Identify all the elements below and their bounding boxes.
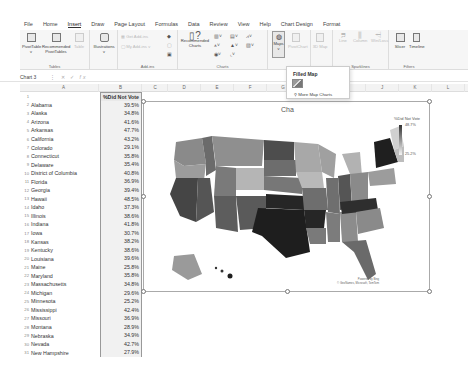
menu-tab-home[interactable]: Home (43, 21, 58, 27)
line-chart-icon[interactable]: ⩚˅ (214, 42, 220, 49)
value-cell[interactable]: 30.7% (100, 229, 142, 238)
value-cell[interactable]: 28.9% (100, 323, 142, 332)
state-cell[interactable]: Delaware (31, 162, 99, 168)
state-cell[interactable]: Minnesota (31, 298, 99, 304)
menu-tab-file[interactable]: File (24, 21, 33, 27)
value-cell[interactable]: 29.1% (100, 143, 142, 152)
row-number[interactable]: 13 (20, 196, 29, 201)
state-cell[interactable]: Indiana (31, 221, 99, 227)
row-number[interactable]: 21 (20, 265, 29, 270)
maps-button[interactable]: ◍ Maps ˅ (272, 31, 285, 58)
value-cell[interactable]: 41.8% (100, 220, 142, 229)
column-header-k[interactable]: K (399, 84, 432, 92)
value-cell[interactable]: 25.8% (100, 263, 142, 272)
resize-handle[interactable] (427, 194, 432, 199)
state-cell[interactable]: Idaho (31, 204, 99, 210)
row-number[interactable]: 4 (20, 119, 29, 124)
state-cell[interactable]: Kentucky (31, 247, 99, 253)
chart-title[interactable]: Cha (281, 106, 294, 113)
state-cell[interactable]: Iowa (31, 230, 99, 236)
state-cell[interactable]: Montana (31, 324, 99, 330)
value-cell[interactable]: 35.4% (100, 160, 142, 169)
timeline-button[interactable]: Timeline (409, 33, 423, 49)
state-cell[interactable]: Connecticut (31, 153, 99, 159)
resize-handle[interactable] (141, 99, 146, 104)
pivotchart-button[interactable]: PivotChart (288, 33, 304, 49)
resize-handle[interactable] (141, 289, 146, 294)
menu-tab-draw[interactable]: Draw (91, 21, 104, 27)
menu-tab-help[interactable]: Help (259, 21, 270, 27)
row-number[interactable]: 29 (20, 333, 29, 338)
value-cell[interactable]: 48.5% (100, 195, 142, 204)
row-number[interactable]: 24 (20, 290, 29, 295)
row-number[interactable]: 22 (20, 273, 29, 278)
column-header-j[interactable]: J (366, 84, 399, 92)
row-number[interactable]: 11 (20, 179, 29, 184)
bing-maps-icon[interactable]: ▣ (167, 51, 172, 57)
row-number[interactable]: 7 (20, 145, 29, 150)
recommended-pivottables-button[interactable]: Recommended PivotTables (42, 33, 70, 54)
menu-tab-chart-design[interactable]: Chart Design (281, 21, 313, 27)
row-number[interactable]: 17 (20, 231, 29, 236)
row-number[interactable]: 25 (20, 299, 29, 304)
state-cell[interactable]: California (31, 136, 99, 142)
state-cell[interactable]: Nebraska (31, 333, 99, 339)
column-header-c[interactable]: C (143, 84, 168, 92)
3d-map-button[interactable]: 3D Map (312, 33, 328, 49)
row-number[interactable]: 30 (20, 342, 29, 347)
filled-map-chart[interactable]: Cha (143, 101, 430, 292)
value-cell[interactable]: 42.4% (100, 306, 142, 315)
value-cell[interactable]: 25.2% (100, 297, 142, 306)
my-addins-button[interactable]: ◯ My Add-ins ˅ (121, 44, 151, 49)
state-cell[interactable]: Alabama (31, 102, 99, 108)
row-number[interactable]: 12 (20, 188, 29, 193)
value-cell[interactable]: 39.4% (100, 186, 142, 195)
cell-b1[interactable]: %Did Not Vote (100, 92, 142, 101)
waterfall-chart-icon[interactable]: ▲˅ (230, 42, 238, 48)
state-cell[interactable]: Florida (31, 179, 99, 185)
name-box[interactable]: Chart 3 (20, 74, 36, 80)
row-number[interactable]: 20 (20, 256, 29, 261)
row-number[interactable]: 28 (20, 325, 29, 330)
state-cell[interactable]: Massachusetts (31, 281, 99, 287)
recommended-charts-button[interactable]: ▯?Recommended Charts (180, 33, 210, 48)
row-number[interactable]: 15 (20, 213, 29, 218)
value-cell[interactable]: 34.8% (100, 280, 142, 289)
state-cell[interactable]: Arizona (31, 119, 99, 125)
value-cell[interactable]: 38.6% (100, 212, 142, 221)
table-button[interactable]: Table (72, 33, 86, 49)
value-cell[interactable]: 27.9% (100, 348, 142, 357)
row-number[interactable]: 8 (20, 154, 29, 159)
row-number[interactable]: 19 (20, 248, 29, 253)
value-cell[interactable]: 34.9% (100, 331, 142, 340)
sparkline-line-button[interactable]: ⩳Line (337, 33, 349, 43)
menu-tab-formulas[interactable]: Formulas (155, 21, 178, 27)
value-cell[interactable]: 39.5% (100, 101, 142, 110)
value-cell[interactable]: 38.2% (100, 237, 142, 246)
pivottable-button[interactable]: PivotTable˅ (22, 33, 40, 54)
value-cell[interactable]: 47.7% (100, 126, 142, 135)
state-cell[interactable]: Colorado (31, 145, 99, 151)
menu-tab-data[interactable]: Data (188, 21, 200, 27)
state-cell[interactable]: Mississippi (31, 307, 99, 313)
state-cell[interactable]: Alaska (31, 110, 99, 116)
row-number[interactable]: 6 (20, 137, 29, 142)
row-number[interactable]: 5 (20, 128, 29, 133)
value-cell[interactable]: 35.8% (100, 271, 142, 280)
menu-tab-view[interactable]: View (238, 21, 250, 27)
column-chart-icon[interactable]: ▥˅ (214, 33, 222, 39)
column-header-a[interactable]: A (29, 84, 99, 92)
state-cell[interactable]: Hawaii (31, 196, 99, 202)
state-cell[interactable]: New Hampshire (31, 350, 99, 356)
state-cell[interactable]: Arkansas (31, 127, 99, 133)
state-cell[interactable]: Kansas (31, 239, 99, 245)
value-cell[interactable]: 36.9% (100, 314, 142, 323)
resize-handle[interactable] (427, 289, 432, 294)
row-number[interactable]: 10 (20, 171, 29, 176)
hierarchy-chart-icon[interactable]: ▤˅ (230, 33, 238, 39)
get-addins-button[interactable]: ▦ Get Add-ins (121, 34, 148, 39)
row-number[interactable]: 9 (20, 162, 29, 167)
column-header-f[interactable]: F (234, 84, 267, 92)
state-cell[interactable]: Maine (31, 264, 99, 270)
row-number[interactable]: 2 (20, 102, 29, 107)
